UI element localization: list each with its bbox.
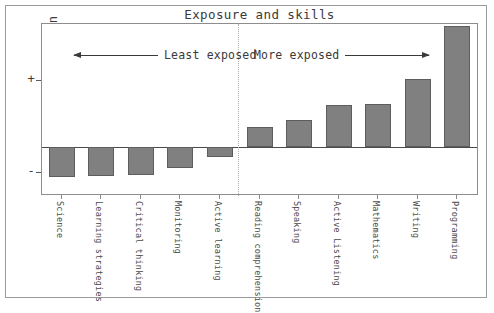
- x-tick-label-active-listening: Active Listening: [332, 201, 342, 286]
- x-tick-mark: [456, 195, 457, 199]
- x-tick-label-writing: Writing: [411, 201, 421, 238]
- x-axis-tick-labels: ScienceLearning strategiesCritical think…: [41, 195, 478, 305]
- bar-writing: [405, 79, 431, 147]
- bar-learning-strategies: [88, 147, 114, 176]
- x-tick-label-programming: Programming: [450, 201, 460, 260]
- chart-title: Exposure and skills: [41, 5, 478, 23]
- y-tick-negative: -: [25, 164, 37, 178]
- bar-series: [42, 24, 477, 194]
- x-tick-label-monitoring: Monitoring: [173, 201, 183, 254]
- x-tick-label-critical-thinking: Critical thinking: [134, 201, 144, 291]
- x-tick-label-learning-strategies: Learning strategies: [94, 201, 104, 302]
- x-tick-label-science: Science: [55, 201, 65, 238]
- bar-active-listening: [326, 105, 352, 147]
- x-tick-label-reading-comprehension: Reading comprehension: [253, 201, 263, 313]
- y-tick-positive: +: [25, 72, 37, 86]
- bar-science: [49, 147, 75, 177]
- x-tick-mark: [259, 195, 260, 199]
- x-tick-mark: [338, 195, 339, 199]
- x-tick-mark: [377, 195, 378, 199]
- bar-programming: [444, 26, 470, 147]
- x-tick-mark: [179, 195, 180, 199]
- x-tick-mark: [61, 195, 62, 199]
- bar-active-learning: [207, 147, 233, 157]
- x-tick-mark: [100, 195, 101, 199]
- x-tick-mark: [298, 195, 299, 199]
- bar-reading-comprehension: [247, 127, 273, 147]
- plot-area: Least exposed More exposed: [41, 23, 478, 195]
- x-tick-mark: [417, 195, 418, 199]
- bar-mathematics: [365, 104, 391, 147]
- bar-critical-thinking: [128, 147, 154, 175]
- bar-monitoring: [167, 147, 193, 168]
- x-tick-label-active-learning: Active learning: [213, 201, 223, 281]
- bar-speaking: [286, 120, 312, 147]
- x-tick-mark: [219, 195, 220, 199]
- x-tick-mark: [140, 195, 141, 199]
- x-tick-label-speaking: Speaking: [292, 201, 302, 244]
- x-tick-label-mathematics: Mathematics: [371, 201, 381, 260]
